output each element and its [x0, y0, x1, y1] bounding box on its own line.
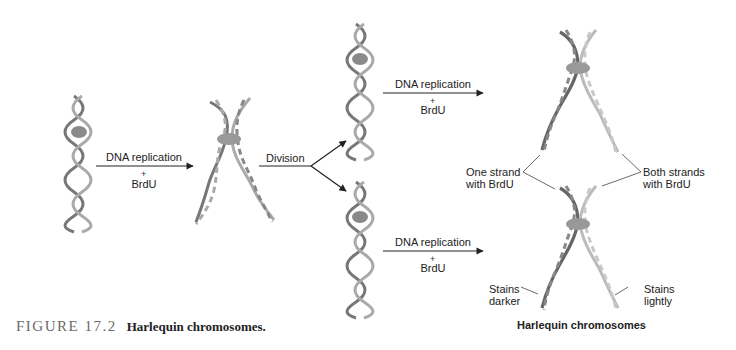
- centromere-icon: [352, 211, 368, 223]
- centromere-icon: [217, 133, 241, 145]
- centromere-icon: [566, 62, 590, 74]
- step1-agent: BrdU: [96, 178, 192, 190]
- helix-icon: [196, 98, 274, 224]
- centromere-icon: [71, 126, 87, 138]
- step3-top-agent: BrdU: [383, 104, 483, 116]
- stains-lightly-line2: lightly: [644, 295, 672, 307]
- both-strands-label-line2: with BrdU: [643, 178, 691, 190]
- step3-bottom-agent: BrdU: [383, 262, 483, 274]
- harlequin-diagram: DNA replication + BrdU Division DNA repl…: [0, 0, 736, 350]
- step1-label: DNA replication: [96, 151, 192, 163]
- one-strand-label-line1: One strand: [466, 166, 520, 178]
- helix-icon: [542, 30, 618, 154]
- helix-icon: [542, 186, 618, 310]
- figure-caption: FIGURE 17.2Harlequin chromosomes.: [16, 317, 266, 335]
- division-label: Division: [266, 152, 305, 164]
- arrow-icon: [311, 141, 346, 166]
- helix-icon: [65, 96, 91, 232]
- figure-caption-text: Harlequin chromosomes.: [127, 319, 266, 334]
- centromere-icon: [352, 53, 368, 65]
- stains-darker-line1: Stains: [489, 283, 520, 295]
- helix-icon: [347, 24, 373, 160]
- result-title: Harlequin chromosomes: [517, 319, 646, 331]
- both-strands-label-line1: Both strands: [643, 166, 705, 178]
- step3-bottom-label: DNA replication: [383, 236, 483, 248]
- stains-lightly-line1: Stains: [644, 283, 675, 295]
- one-strand-label-line2: with BrdU: [466, 178, 514, 190]
- centromere-icon: [566, 218, 590, 230]
- step3-top-label: DNA replication: [383, 78, 483, 90]
- arrow-icon: [311, 166, 346, 191]
- figure-number: FIGURE 17.2: [16, 318, 117, 334]
- helix-icon: [347, 182, 373, 318]
- stains-darker-line2: darker: [489, 295, 520, 307]
